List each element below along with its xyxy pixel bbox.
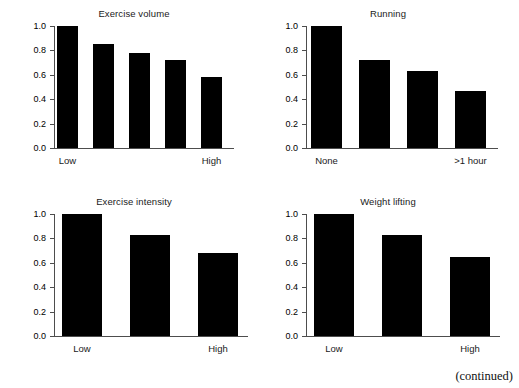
bar — [129, 53, 150, 148]
x-axis-line — [306, 148, 498, 149]
x-axis-tick-label: Low — [294, 344, 374, 354]
bar — [130, 235, 170, 336]
x-axis-tick-label: High — [430, 344, 510, 354]
bar — [93, 44, 114, 148]
bar — [382, 235, 422, 336]
bar — [165, 60, 186, 148]
plot-area: 0.00.20.40.60.81.0 None>1 hour — [266, 26, 510, 178]
x-axis-tick-label: High — [172, 156, 252, 166]
x-axis-line — [306, 336, 500, 337]
plot-area: 0.00.20.40.60.81.0 LowHigh — [266, 214, 510, 366]
chart-title: Running — [266, 8, 510, 19]
bar-series — [266, 26, 510, 148]
bar — [314, 214, 354, 336]
plot-area: 0.00.20.40.60.81.0 LowHigh — [14, 26, 254, 178]
bar-series — [14, 214, 254, 336]
x-axis-line — [54, 336, 248, 337]
bar — [407, 71, 438, 148]
bar — [198, 253, 238, 336]
x-axis-tick-label: Low — [42, 344, 122, 354]
chart-title: Exercise intensity — [14, 196, 254, 207]
x-axis-tick-label: High — [178, 344, 258, 354]
bar — [57, 26, 78, 148]
x-axis-tick-label: None — [287, 156, 367, 166]
bar — [359, 60, 390, 148]
bar-series — [14, 26, 254, 148]
x-axis-tick-label: Low — [28, 156, 108, 166]
bar — [201, 77, 222, 148]
bar — [311, 26, 342, 148]
plot-area: 0.00.20.40.60.81.0 LowHigh — [14, 214, 254, 366]
x-axis-line — [54, 148, 234, 149]
chart-title: Weight lifting — [266, 196, 510, 207]
x-axis-tick-label: >1 hour — [431, 156, 511, 166]
bar — [62, 214, 102, 336]
chart-title: Exercise volume — [14, 8, 254, 19]
figure-panel-grid: Exercise volume 0.00.20.40.60.81.0 LowHi… — [0, 0, 519, 388]
bar-series — [266, 214, 510, 336]
bar — [455, 91, 486, 148]
bar — [450, 257, 490, 336]
continued-note: (continued) — [455, 369, 513, 384]
